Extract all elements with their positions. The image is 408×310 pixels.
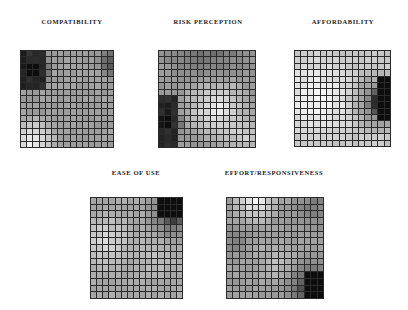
heatmap-cell — [298, 286, 303, 292]
heatmap-cell — [102, 103, 107, 108]
heatmap-cell — [191, 116, 196, 121]
heatmap-cell — [159, 57, 164, 62]
heatmap-cell — [279, 238, 284, 244]
heatmap-cell — [308, 134, 313, 139]
heatmap-cell — [385, 102, 390, 107]
heatmap-cell — [318, 286, 323, 292]
heatmap-cell — [385, 51, 390, 56]
heatmap-cell — [95, 57, 100, 62]
heatmap-cell — [83, 116, 88, 121]
heatmap-cell — [97, 205, 102, 211]
heatmap-cell — [177, 279, 182, 285]
heatmap-cell — [198, 57, 203, 62]
heatmap-cell — [353, 128, 358, 133]
heatmap-cell — [178, 122, 183, 127]
heatmap-cell — [314, 51, 319, 56]
heatmap-cell — [177, 205, 182, 211]
heatmap-cell — [58, 83, 63, 88]
heatmap-cell — [134, 252, 139, 258]
heatmap-cell — [224, 57, 229, 62]
heatmap-cell — [152, 272, 157, 278]
heatmap-cell — [172, 51, 177, 56]
heatmap-cell — [27, 77, 32, 82]
heatmap-cell — [172, 129, 177, 134]
heatmap-cell — [97, 292, 102, 298]
heatmap-cell — [172, 109, 177, 114]
heatmap-cell — [165, 259, 170, 265]
heatmap-cell — [327, 70, 332, 75]
heatmap-cell — [321, 64, 326, 69]
heatmap-cell — [77, 103, 82, 108]
heatmap-cell — [178, 77, 183, 82]
heatmap-cell — [259, 252, 264, 258]
heatmap-cell — [285, 232, 290, 238]
heatmap-cell — [177, 272, 182, 278]
heatmap-cell — [327, 141, 332, 146]
heatmap-cell — [146, 238, 151, 244]
heatmap-cell — [240, 279, 245, 285]
heatmap-cell — [340, 109, 345, 114]
heatmap-cell — [52, 96, 57, 101]
heatmap-cell — [365, 51, 370, 56]
heatmap-cell — [33, 129, 38, 134]
heatmap-cell — [146, 292, 151, 298]
heatmap-cell — [134, 265, 139, 271]
heatmap-cell — [172, 64, 177, 69]
heatmap-cell — [227, 245, 232, 251]
heatmap-cell — [97, 245, 102, 251]
heatmap-cell — [191, 109, 196, 114]
heatmap-cell — [295, 57, 300, 62]
heatmap-cell — [33, 109, 38, 114]
heatmap-cell — [165, 252, 170, 258]
heatmap-cell — [191, 64, 196, 69]
heatmap-cell — [27, 116, 32, 121]
heatmap-cell — [308, 115, 313, 120]
heatmap-cell — [246, 218, 251, 224]
heatmap-cell — [89, 70, 94, 75]
heatmap-cell — [250, 83, 255, 88]
heatmap-cell — [103, 292, 108, 298]
panel-title: EASE OF USE — [90, 169, 182, 176]
heatmap-cell — [333, 115, 338, 120]
heatmap-cell — [211, 122, 216, 127]
heatmap-cell — [178, 64, 183, 69]
heatmap-cell — [33, 142, 38, 147]
heatmap-cell — [295, 115, 300, 120]
heatmap-cell — [83, 103, 88, 108]
heatmap-cell — [102, 77, 107, 82]
heatmap-cell — [233, 211, 238, 217]
heatmap-cell — [178, 57, 183, 62]
heatmap-cell — [259, 245, 264, 251]
heatmap-cell — [198, 70, 203, 75]
heatmap-cell — [108, 129, 113, 134]
heatmap-cell — [177, 265, 182, 271]
heatmap-cell — [279, 286, 284, 292]
heatmap-cell — [285, 252, 290, 258]
heatmap-cell — [266, 292, 271, 298]
heatmap-cell — [230, 142, 235, 147]
heatmap-cell — [178, 142, 183, 147]
heatmap-cell — [266, 265, 271, 271]
heatmap-cell — [177, 218, 182, 224]
heatmap-cell — [365, 77, 370, 82]
heatmap-cell — [103, 272, 108, 278]
heatmap-cell — [372, 115, 377, 120]
heatmap-cell — [237, 142, 242, 147]
heatmap-cell — [40, 96, 45, 101]
heatmap-cell — [108, 122, 113, 127]
heatmap-cell — [91, 225, 96, 231]
heatmap-cell — [359, 51, 364, 56]
heatmap-cell — [279, 232, 284, 238]
heatmap-cell — [295, 83, 300, 88]
heatmap-cell — [109, 225, 114, 231]
heatmap-cell — [102, 109, 107, 114]
heatmap-cell — [240, 218, 245, 224]
heatmap-cell — [46, 77, 51, 82]
heatmap-cell — [71, 51, 76, 56]
heatmap-cell — [46, 90, 51, 95]
heatmap-cell — [305, 211, 310, 217]
heatmap-cell — [243, 103, 248, 108]
heatmap-cell — [279, 225, 284, 231]
heatmap-cell — [58, 129, 63, 134]
heatmap-cell — [298, 279, 303, 285]
